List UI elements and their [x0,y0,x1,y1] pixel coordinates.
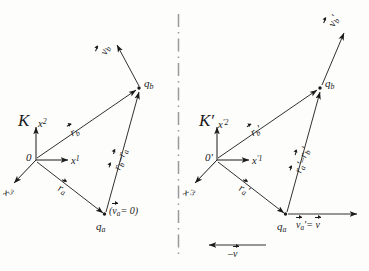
left-origin-label: 0 [26,152,32,163]
left-axis-x3-line [14,160,36,183]
physics-vector-diagram: K x2 0 x1 x3 rb ra rb–ra vb qb qa (va= 0… [0,0,369,271]
left-point-qa-dot [103,212,106,215]
right-axis-x2-label: x′2 [218,119,228,131]
right-point-qb-dot [318,86,321,89]
left-axis-x2-label: x2 [38,118,47,130]
right-point-qa-dot [284,212,287,215]
right-va-equals: = [306,219,313,230]
right-axis-x2-exponent: ′2 [223,118,229,127]
right-origin-prime: ′ [211,151,213,163]
right-axis-x1-label: x′1 [252,155,262,167]
right-point-qb-label: qb [325,78,334,91]
note-close-paren: ) [135,205,138,216]
left-point-qb-label: qb [144,78,153,91]
left-point-qb-dot [137,86,140,89]
boost-v-glyph: v [233,249,237,259]
note-equals-zero: = 0 [120,205,134,216]
boost-velocity-label: –v [228,249,237,259]
left-axis-x1-label: x1 [71,155,80,167]
left-point-qa-subscript: a [102,225,106,234]
right-va-glyph: v [296,220,300,230]
right-frame-name: K′ [199,112,214,129]
right-frame-graphics [195,33,357,245]
left-point-qa-label: qa [96,221,105,234]
right-velocity-equality-note: va′= v [296,220,320,232]
left-point-qb-subscript: b [150,82,154,91]
left-zero-velocity-note: (va= 0) [109,206,138,218]
right-v-glyph: v [315,220,319,230]
right-point-qb-subscript: b [331,82,335,91]
right-point-qa-label: qa [277,221,286,234]
right-axis-x1-exponent: ′1 [257,154,263,163]
left-frame-name: K [18,112,29,129]
left-axis-x1-exponent: 1 [76,154,80,163]
right-origin-label: 0′ [205,152,213,163]
right-frame-name-prime: ′ [210,111,214,130]
right-axis-x3-line [195,160,217,183]
left-axis-x2-exponent: 2 [43,117,47,126]
left-vector-vb-line [117,45,139,86]
left-vector-ra-line [37,162,103,213]
note-v-glyph: v [112,206,116,216]
right-point-qa-subscript: a [283,225,287,234]
